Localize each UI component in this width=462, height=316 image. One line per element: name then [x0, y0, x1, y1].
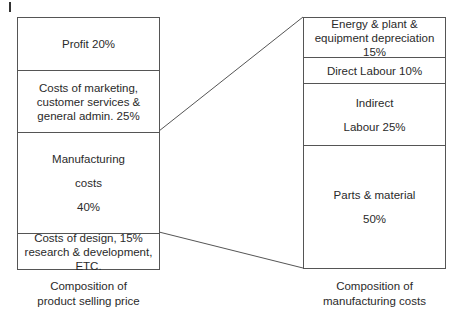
- manufacturing-caption-line1: Composition of: [303, 279, 446, 294]
- segment-parts-line2: 50%: [363, 212, 386, 226]
- connector-bottom: [159, 232, 303, 268]
- selling-price-stack: Profit 20% Costs of marketing, customer …: [17, 17, 160, 270]
- selling-price-caption-line2: product selling price: [17, 294, 160, 309]
- segment-profit: Profit 20%: [18, 18, 159, 70]
- segment-marketing-line3: general admin. 25%: [37, 109, 139, 123]
- segment-direct-labour-label: Direct Labour 10%: [327, 64, 422, 78]
- segment-marketing-line2: customer services &: [37, 95, 141, 109]
- manufacturing-costs-caption: Composition of manufacturing costs: [303, 279, 446, 309]
- segment-direct-labour: Direct Labour 10%: [304, 57, 445, 83]
- segment-energy-line2: equipment depreciation 15%: [304, 31, 445, 59]
- segment-manufacturing-costs: Manufacturing costs 40%: [18, 132, 159, 233]
- segment-design-rd: Costs of design, 15% research & developm…: [18, 233, 159, 269]
- segment-marketing-line1: Costs of marketing,: [39, 81, 138, 95]
- segment-manufacturing-line1: Manufacturing: [52, 152, 125, 166]
- manufacturing-costs-stack: Energy & plant & equipment depreciation …: [303, 17, 446, 269]
- connector-top: [159, 17, 303, 131]
- segment-marketing-costs: Costs of marketing, customer services & …: [18, 70, 159, 132]
- selling-price-caption-line1: Composition of: [17, 279, 160, 294]
- segment-profit-label: Profit 20%: [62, 37, 115, 51]
- segment-energy-depreciation: Energy & plant & equipment depreciation …: [304, 18, 445, 57]
- segment-design-line2: research & development, ETC.: [18, 245, 159, 273]
- segment-indirect-line2: Labour 25%: [343, 120, 405, 134]
- segment-parts-material: Parts & material 50%: [304, 145, 445, 268]
- segment-manufacturing-line3: 40%: [77, 200, 100, 214]
- segment-manufacturing-line2: costs: [75, 176, 102, 190]
- segment-parts-line1: Parts & material: [334, 188, 416, 202]
- segment-energy-line1: Energy & plant &: [331, 17, 417, 31]
- segment-design-line1: Costs of design, 15%: [34, 231, 143, 245]
- segment-indirect-labour: Indirect Labour 25%: [304, 83, 445, 145]
- segment-indirect-line1: Indirect: [356, 96, 394, 110]
- manufacturing-caption-line2: manufacturing costs: [303, 294, 446, 309]
- selling-price-caption: Composition of product selling price: [17, 279, 160, 309]
